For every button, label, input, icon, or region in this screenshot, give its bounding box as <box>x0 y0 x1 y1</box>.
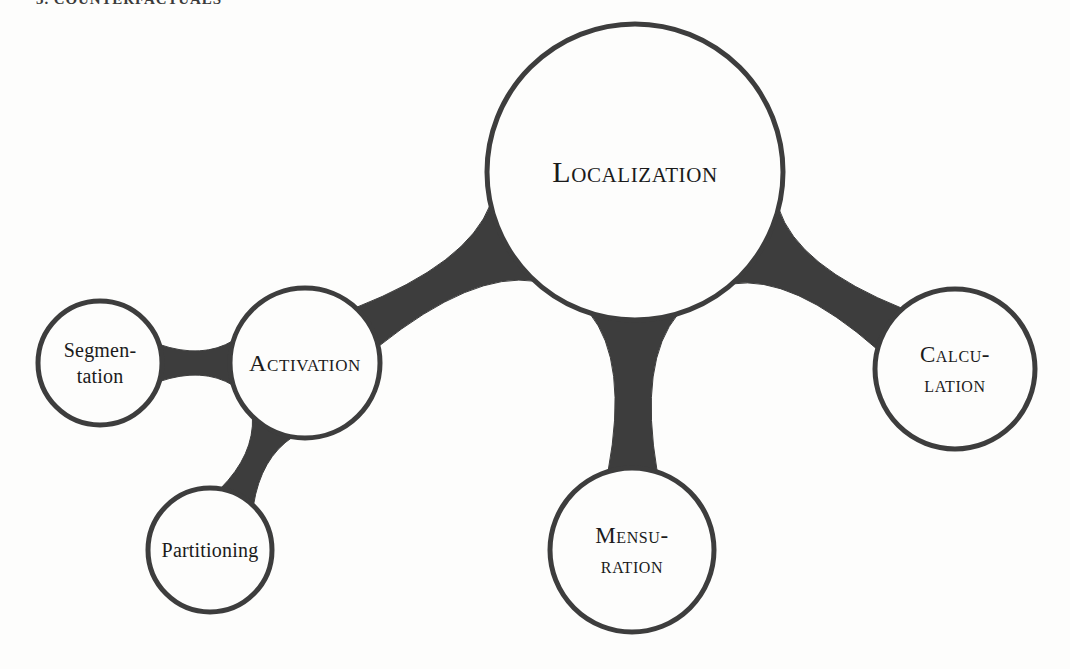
node-label-line: tation <box>77 365 124 387</box>
edge-localization-mensuration <box>589 313 678 472</box>
concept-map-canvas: LocalizationActivationCalcu-lationMensu-… <box>0 0 1070 669</box>
node-label-line: Partitioning <box>162 539 259 562</box>
node-localization[interactable]: Localization <box>487 24 783 320</box>
node-label-line: Localization <box>552 155 718 188</box>
node-circle-mensuration[interactable] <box>550 468 714 632</box>
node-circle-segmentation[interactable] <box>38 301 162 425</box>
node-layer: LocalizationActivationCalcu-lationMensu-… <box>38 24 1035 632</box>
node-partitioning[interactable]: Partitioning <box>148 488 272 612</box>
node-mensuration[interactable]: Mensu-ration <box>550 468 714 632</box>
node-label-line: Mensu- <box>595 523 669 548</box>
concept-map-diagram: 3. COUNTERFACTUALS LocalizationActivatio… <box>0 0 1070 669</box>
node-label-activation: Activation <box>249 350 361 376</box>
node-label-localization: Localization <box>552 155 718 188</box>
node-circle-calculation[interactable] <box>875 289 1035 449</box>
node-calculation[interactable]: Calcu-lation <box>875 289 1035 449</box>
node-activation[interactable]: Activation <box>230 288 380 438</box>
node-segmentation[interactable]: Segmen-tation <box>38 301 162 425</box>
node-label-line: Calcu- <box>920 342 990 367</box>
edge-activation-segmentation <box>159 341 233 386</box>
node-label-line: Activation <box>249 350 361 376</box>
node-label-line: lation <box>924 372 985 397</box>
node-label-partitioning: Partitioning <box>162 539 259 562</box>
node-label-line: ration <box>601 553 663 578</box>
node-label-line: Segmen- <box>64 339 137 362</box>
